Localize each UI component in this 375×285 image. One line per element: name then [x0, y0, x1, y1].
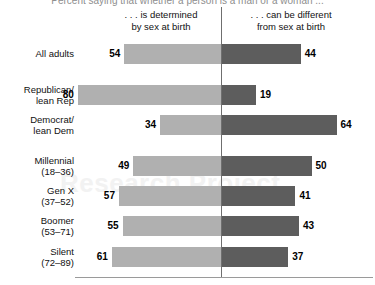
column-header-right-line2: from sex at birth [229, 21, 353, 33]
bar-value-right: 41 [299, 190, 310, 201]
bar-value-right: 50 [316, 160, 327, 171]
bar-value-left: 49 [93, 160, 129, 171]
column-header-left-line2: by sex at birth [108, 21, 214, 33]
bar-value-left: 34 [120, 119, 156, 130]
bar-left [133, 156, 221, 176]
chart-row: Boomer(53–71)5543 [0, 215, 375, 237]
chart-title: Percent saying that whether a person is … [0, 0, 375, 6]
bar-value-right: 19 [260, 89, 271, 100]
row-category-label-line1: All adults [0, 48, 74, 59]
row-category-label-line1: Silent [0, 246, 74, 257]
row-category-label: Gen X(37–52) [0, 185, 74, 207]
bar-value-left: 61 [72, 251, 108, 262]
column-header-left: . . . is determined by sex at birth [108, 9, 214, 33]
chart-row: Silent(72–89)6137 [0, 246, 375, 268]
bar-right [222, 247, 288, 267]
chart-row: Democrat/lean Dem3464 [0, 114, 375, 136]
bar-value-left: 55 [83, 220, 119, 231]
row-category-label-line1: Millennial [0, 155, 74, 166]
bar-right [222, 115, 337, 135]
column-header-left-line1: . . . is determined [108, 9, 214, 21]
bar-left [124, 44, 221, 64]
chart-row: All adults5444 [0, 43, 375, 65]
bar-right [222, 216, 299, 236]
bar-value-right: 64 [341, 119, 352, 130]
bar-right [222, 186, 295, 206]
row-category-label: All adults [0, 43, 74, 59]
row-category-label: Millennial(18–36) [0, 155, 74, 177]
bar-right [222, 85, 256, 105]
row-category-label: Boomer(53–71) [0, 215, 74, 237]
bar-value-right: 43 [303, 220, 314, 231]
bar-value-right: 44 [305, 48, 316, 59]
chart-row: Millennial(18–36)4950 [0, 155, 375, 177]
baseline-rule [75, 277, 373, 278]
column-header-right-line1: . . . can be different [229, 9, 353, 21]
bar-value-left: 54 [84, 48, 120, 59]
bar-left [78, 85, 221, 105]
bar-left [160, 115, 221, 135]
row-category-label-line1: Democrat/ [0, 114, 74, 125]
bar-right [222, 44, 301, 64]
bar-left [119, 186, 221, 206]
bar-value-left: 57 [79, 190, 115, 201]
row-category-label: Democrat/lean Dem [0, 114, 74, 136]
bar-left [112, 247, 221, 267]
row-category-label-line2: lean Dem [0, 125, 74, 136]
row-category-label-line2: (72–89) [0, 257, 74, 268]
row-category-label-line2: (37–52) [0, 196, 74, 207]
row-category-label-line2: (53–71) [0, 226, 74, 237]
row-category-label: Silent(72–89) [0, 246, 74, 268]
chart-row: Gen X(37–52)5741 [0, 185, 375, 207]
row-category-label-line1: Boomer [0, 215, 74, 226]
column-header-right: . . . can be different from sex at birth [229, 9, 353, 33]
diverging-bar-chart: Research Project Percent saying that whe… [0, 0, 375, 285]
bar-right [222, 156, 312, 176]
row-category-label-line2: (18–36) [0, 166, 74, 177]
bar-left [123, 216, 221, 236]
bar-value-left: 80 [38, 89, 74, 100]
bar-value-right: 37 [292, 251, 303, 262]
row-category-label-line1: Gen X [0, 185, 74, 196]
chart-row: Republican/lean Rep8019 [0, 84, 375, 106]
